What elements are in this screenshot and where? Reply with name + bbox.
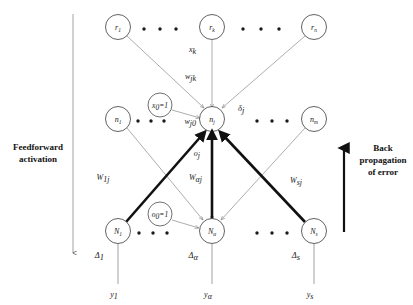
label-output-weight-first: W1j xyxy=(97,173,111,184)
output-tails xyxy=(118,244,314,284)
backpropagation-annotation: Back propagation of error xyxy=(344,143,406,232)
diagram-canvas: r1 rk rn xyxy=(0,0,413,305)
edge-rn-nj xyxy=(222,36,305,108)
neural-network-diagram: r1 rk rn xyxy=(0,0,413,305)
edge-bias-o0-Na xyxy=(172,220,199,228)
label-delta-1: Δ1 xyxy=(94,250,104,262)
hidden-ellipsis-left xyxy=(136,119,165,122)
label-y1: y1 xyxy=(109,290,118,301)
feedforward-label-line2: activation xyxy=(19,154,57,164)
input-ellipsis-left xyxy=(142,27,177,30)
output-ellipsis-right xyxy=(255,231,288,234)
backprop-label-line1: Back xyxy=(373,143,393,153)
label-delta-alpha: Δα xyxy=(188,250,199,262)
label-output-weight-alpha: Wαj xyxy=(189,173,203,184)
output-ellipsis-left xyxy=(137,231,168,234)
label-ys: ys xyxy=(306,290,314,301)
feedforward-annotation: Feedforward activation xyxy=(13,14,73,253)
label-delta-s: Δs xyxy=(291,250,301,262)
label-hidden-weight: wjk xyxy=(185,72,197,83)
hidden-ellipsis-right xyxy=(255,119,288,122)
backprop-label-line3: of error xyxy=(368,167,398,177)
input-layer: r1 rk rn xyxy=(106,15,327,40)
feedforward-label-line1: Feedforward xyxy=(13,142,63,152)
label-hidden-delta: δj xyxy=(238,103,245,115)
input-ellipsis-right xyxy=(241,27,280,30)
label-input-signal: xk xyxy=(188,45,197,56)
label-hidden-output: oj xyxy=(194,149,201,160)
backprop-label-line2: propagation xyxy=(360,155,407,165)
hidden-layer: x0=1 n1 nj nm xyxy=(106,93,327,132)
edge-nm-to-Na xyxy=(221,128,305,220)
label-output-weight-last: Wsj xyxy=(290,176,303,187)
label-hidden-bias-weight: wj0 xyxy=(184,117,196,128)
label-yalpha: yα xyxy=(203,290,213,301)
